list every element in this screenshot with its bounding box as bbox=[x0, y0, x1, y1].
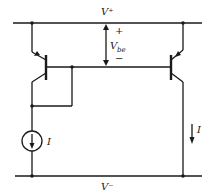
circuit-diagram: V⁺ V⁻ + V be − bbox=[0, 0, 212, 196]
output-current-indicator: I bbox=[190, 124, 203, 144]
output-current-label: I bbox=[196, 124, 202, 135]
vbe-arrow-down-icon bbox=[103, 60, 109, 66]
junction-dot-collector bbox=[30, 104, 34, 108]
negative-supply-label: V⁻ bbox=[101, 181, 114, 192]
vbe-plus-sign: + bbox=[115, 25, 123, 36]
right-pnp-transistor bbox=[171, 23, 183, 176]
junction-dot-right-top bbox=[181, 21, 185, 25]
current-source: I bbox=[22, 131, 52, 176]
junction-dot-left-top bbox=[30, 21, 34, 25]
left-collector-diagonal bbox=[32, 73, 46, 82]
junction-dot-right-bottom bbox=[181, 174, 185, 178]
vbe-minus-sign: − bbox=[115, 53, 123, 64]
output-current-arrow-icon bbox=[190, 137, 195, 144]
junction-dot-base bbox=[70, 65, 74, 69]
current-source-arrow-icon bbox=[30, 143, 35, 149]
vbe-indicator: + V be − bbox=[103, 24, 126, 66]
reference-current-label: I bbox=[46, 136, 52, 147]
right-collector-diagonal bbox=[171, 73, 183, 82]
positive-supply-label: V⁺ bbox=[101, 6, 114, 17]
left-emitter-diagonal bbox=[32, 52, 46, 60]
vbe-arrow-up-icon bbox=[103, 24, 109, 30]
left-pnp-transistor bbox=[32, 23, 46, 131]
